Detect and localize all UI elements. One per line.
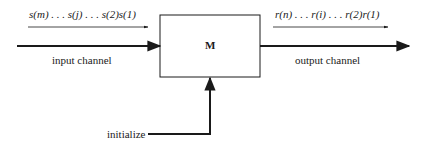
initialize-label: initialize bbox=[107, 129, 145, 140]
input-sequence-label: s(m) . . . s(j) . . . s(2)s(1) bbox=[29, 9, 136, 20]
initialize-arrow bbox=[148, 78, 210, 134]
diagram-canvas bbox=[0, 0, 425, 149]
output-sequence-label: r(n) . . . r(i) . . . r(2)r(1) bbox=[275, 9, 379, 20]
machine-label: M bbox=[205, 39, 215, 51]
output-channel-label: output channel bbox=[295, 55, 360, 66]
input-channel-label: input channel bbox=[52, 55, 112, 66]
